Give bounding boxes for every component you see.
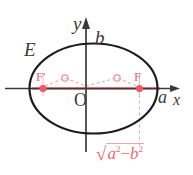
focal-distance-formula: √a2−b2 bbox=[96, 143, 144, 165]
ellipse-figure: E y b O a x F' F √a2−b2 bbox=[0, 0, 193, 175]
point-marker-right bbox=[114, 75, 120, 81]
focus-right-label: F bbox=[134, 70, 141, 83]
y-axis-label: y bbox=[73, 14, 81, 33]
radical-sign-icon: √ bbox=[96, 143, 106, 164]
formula-term-a: a bbox=[107, 144, 116, 163]
focal-radii-dashed-path bbox=[45, 78, 137, 86]
formula-term-b: b bbox=[130, 144, 139, 163]
focus-left-dot bbox=[39, 85, 46, 92]
y-axis-arrowhead bbox=[82, 17, 90, 29]
radicand-group: a2−b2 bbox=[106, 143, 144, 164]
formula-exponent-b: 2 bbox=[139, 144, 144, 154]
semi-minor-axis-label: b bbox=[95, 28, 105, 47]
formula-operator: − bbox=[120, 144, 130, 163]
semi-major-axis-label: a bbox=[158, 88, 167, 106]
ellipse-label-E: E bbox=[24, 40, 36, 59]
point-marker-left bbox=[62, 75, 68, 81]
origin-label: O bbox=[74, 91, 87, 109]
focus-right-dot bbox=[136, 85, 143, 92]
focus-left-label: F' bbox=[36, 70, 46, 83]
x-axis-label: x bbox=[173, 92, 180, 108]
